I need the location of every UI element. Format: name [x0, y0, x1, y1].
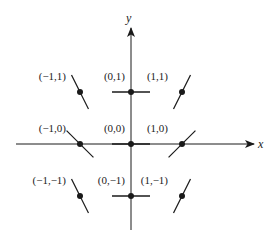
slope-segment [174, 179, 191, 213]
slope-segment [112, 141, 150, 147]
point-label: (0,1) [104, 70, 125, 83]
direction-field-diagram: x y (−1,1)(0,1)(1,1)(−1,0)(0,0)(1,0)(−1,… [0, 0, 272, 238]
point-label: (1,−1) [141, 174, 169, 187]
point-label: (−1,1) [39, 70, 67, 83]
point-dot [179, 193, 185, 199]
point-label: (0,−1) [98, 174, 126, 187]
x-axis-label: x [257, 137, 264, 151]
slope-segment [72, 75, 89, 109]
point-dot [77, 193, 83, 199]
point-dot [128, 141, 134, 147]
point-dot [128, 193, 134, 199]
point-dot [179, 141, 185, 147]
slope-segment [112, 193, 150, 199]
point-label: (−1,−1) [33, 174, 67, 187]
slope-segment [174, 75, 191, 109]
slope-segment [112, 89, 150, 95]
slope-segment [72, 179, 89, 213]
point-label: (1,1) [147, 70, 168, 83]
point-dot [77, 89, 83, 95]
point-label: (1,0) [147, 122, 168, 135]
point-dot [179, 89, 185, 95]
point-labels: (−1,1)(0,1)(1,1)(−1,0)(0,0)(1,0)(−1,−1)(… [33, 70, 169, 187]
point-dot [128, 89, 134, 95]
y-axis-label: y [125, 11, 132, 25]
point-dot [77, 141, 83, 147]
point-label: (0,0) [104, 122, 125, 135]
point-label: (−1,0) [39, 122, 67, 135]
